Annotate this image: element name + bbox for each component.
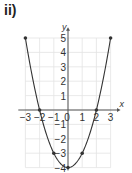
x-axis-label: x <box>119 99 125 109</box>
y-axis-label: y <box>61 22 67 32</box>
data-point <box>52 151 56 155</box>
data-point <box>80 151 84 155</box>
y-tick-label: 4 <box>60 47 66 58</box>
y-tick-label: 5 <box>60 33 66 44</box>
data-point <box>109 36 113 40</box>
x-tick-label: −3 <box>20 112 32 123</box>
y-axis-arrow-icon <box>66 27 70 31</box>
x-tick-label: 3 <box>108 112 114 123</box>
x-tick-label: −2 <box>34 112 46 123</box>
y-tick-label: 1 <box>60 91 66 102</box>
data-point <box>24 36 28 40</box>
y-tick-label: 3 <box>60 62 66 73</box>
data-point <box>95 108 99 112</box>
y-tick-label: −2 <box>55 134 67 145</box>
parabola-chart: xy−3−2−1012354321−1−2−3−4 <box>0 0 132 173</box>
data-point <box>38 108 42 112</box>
data-point <box>66 166 70 170</box>
x-tick-label: 1 <box>79 112 85 123</box>
y-tick-label: −1 <box>55 119 67 130</box>
y-tick-label: 2 <box>60 76 66 87</box>
